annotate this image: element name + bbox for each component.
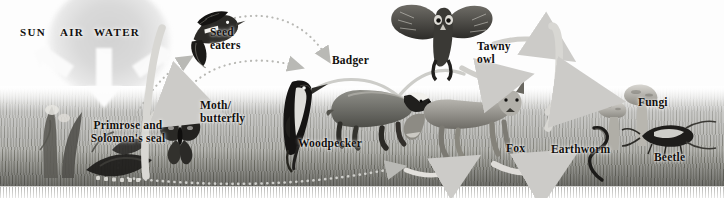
label-sun: SUN [20, 26, 46, 39]
label-woodpecker: Woodpecker [298, 137, 362, 150]
label-primrose-and-solomons-seal: Primrose and Solomon's seal [68, 119, 188, 144]
label-moth-butterfly: Moth/ butterfly [200, 99, 245, 124]
label-fox: Fox [506, 142, 525, 155]
label-tawny-owl: Tawny owl [477, 40, 511, 65]
label-beetle: Beetle [654, 151, 685, 164]
label-seed-eaters: Seed eaters [210, 26, 241, 51]
label-layer: SUN AIR WATER Primrose and Solomon's sea… [0, 0, 724, 198]
label-earthworm: Earthworm [551, 143, 610, 156]
label-badger: Badger [332, 54, 369, 67]
label-fungi: Fungi [638, 96, 668, 109]
label-water: WATER [94, 26, 140, 39]
food-web-diagram: SUN AIR WATER Primrose and Solomon's sea… [0, 0, 724, 198]
label-air: AIR [60, 26, 84, 39]
